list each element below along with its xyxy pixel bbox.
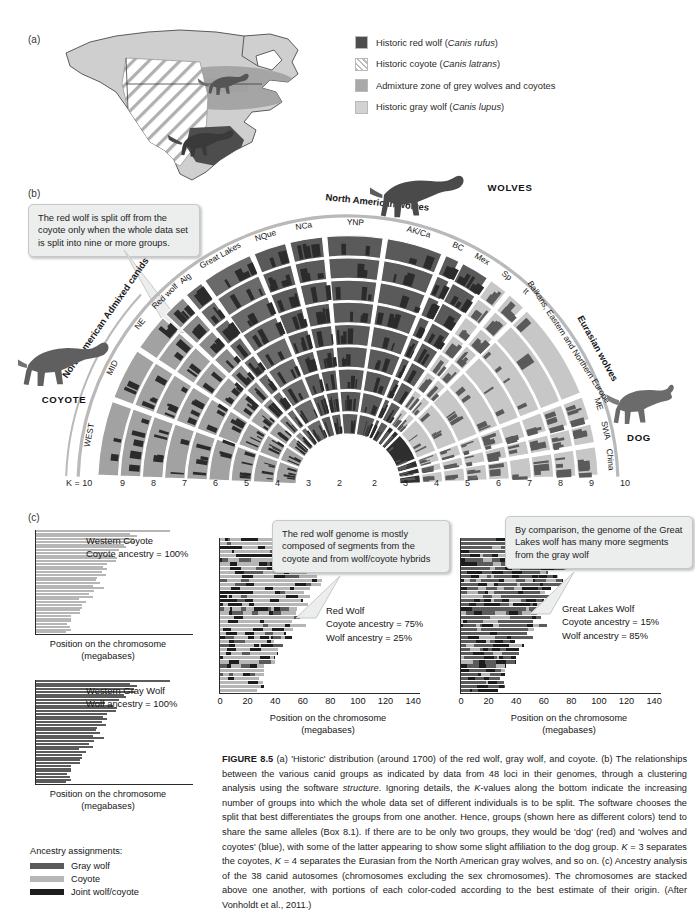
chromosome-bar [36,620,71,622]
ancestry-segment [473,652,484,655]
ancestry-segment [258,571,263,574]
fan-cell [335,287,340,300]
chromosome-bar [36,743,89,745]
chart-western-gray-wolf-title: Western Gray Wolf Wolf ancestry = 100% [86,684,177,711]
fan-cell [295,259,327,284]
chromosome-bar [461,644,524,647]
x-tick-label: 80 [325,696,335,706]
title-line: Wolf ancestry = 25% [326,631,423,644]
figure-caption: FIGURE 8.5 (a) 'Historic' distribution (… [222,752,687,913]
chromosome-bar [36,776,70,778]
chromosome-bar [220,664,264,667]
ancestry-segment [220,599,229,602]
ancestry-assignments-legend: Ancestry assignments: Gray wolf Coyote J… [30,846,139,900]
x-tick-label: 20 [242,696,252,706]
ancestry-segment [470,689,472,692]
north-america-map [30,22,310,187]
chromosome-bar [220,611,296,614]
x-tick-label: 0 [217,696,222,706]
chromosome-bar [36,604,82,606]
ancestry-segment [229,660,239,663]
chart-western-coyote-xlabel: Position on the chromosome (megabases) [18,638,198,663]
chromosome-bar [220,681,263,684]
x-axis-line [35,784,193,785]
ancestry-segment [229,595,232,598]
group-header-eurasian-wolves: Eurasian wolves [576,313,621,383]
ancestry-segment [514,648,519,651]
ancestry-segment [268,607,270,610]
ancestry-segment [280,591,285,594]
gray-wolf-label: Gray wolf [71,861,110,871]
ancestry-segment [464,579,470,582]
legend-item: Gray wolf [30,861,139,871]
title-line: Great Lakes Wolf [562,602,659,615]
ancestry-segment [499,685,505,688]
title-line: Western Coyote [86,534,188,547]
ancestry-segment [467,591,478,594]
xlabel-line2: (megabases) [18,800,198,812]
ancestry-segment [241,579,249,582]
fan-cell [341,335,345,343]
ancestry-segment [231,587,240,590]
ancestry-segment [479,575,488,578]
callout-great-lakes-genome: By comparison, the genome of the Great L… [505,516,693,569]
ancestry-segment [258,546,265,549]
chromosome-bar [36,721,102,723]
fan-cell [350,312,353,322]
k-axis-label-right-4: 4 [434,478,439,488]
ancestry-segment [220,579,227,582]
chromosome-bar [461,681,504,684]
ancestry-segment [510,640,514,643]
ancestry-segment [466,644,475,647]
fan-cell [348,382,351,388]
ancestry-segment [229,644,235,647]
chromosome-bar [220,640,274,643]
chromosome-bar [36,615,71,617]
ancestry-segment [285,636,291,639]
chromosome-bar [220,591,304,594]
ancestry-segment [261,554,272,557]
ancestry-segment [469,603,476,606]
chromosome-bar [461,628,534,631]
ancestry-segment [522,644,524,647]
historic-gray-wolf-swatch [355,101,368,114]
chromosome-bar [220,660,275,663]
ancestry-segment [226,632,236,635]
fan-cell [347,395,349,410]
ancestry-segment [509,611,519,614]
coyote-swatch [30,876,64,882]
ancestry-segment [493,652,502,655]
ancestry-segment [461,660,473,663]
ancestry-segment [477,685,488,688]
ancestry-segment [509,644,518,647]
x-tick-label: 100 [350,696,365,706]
ancestry-segment [256,567,267,570]
ancestry-segment [478,689,487,692]
chromosome-bar [36,729,96,731]
ancestry-segment [468,677,475,680]
chromosome-bar [461,611,537,614]
ancestry-segment [220,595,227,598]
ancestry-segment [479,636,487,639]
x-tick-label: 60 [298,696,308,706]
x-tick-label: 40 [270,696,280,706]
k-axis-label-left-8: 8 [151,478,156,488]
ancestry-segment [252,611,258,614]
ancestry-segment [260,620,264,623]
ancestry-segment [495,611,506,614]
chromosome-bar [220,689,257,692]
ancestry-segment [498,648,500,651]
ancestry-segment [229,673,234,676]
k-axis-label-right-10: 10 [620,478,630,488]
ancestry-segment [492,546,501,549]
ancestry-segment [499,616,509,619]
ancestry-segment [248,636,254,639]
chart-red-wolf-title: Red Wolf Coyote ancestry = 75% Wolf ance… [326,604,423,644]
ancestry-segment [242,575,254,578]
admixture-zone-swatch [355,79,368,92]
ancestry-segment [227,664,231,667]
chromosome-bar [36,773,67,775]
chromosome-bar [36,732,100,734]
ancestry-segment [237,591,246,594]
ancestry-segment [488,603,499,606]
